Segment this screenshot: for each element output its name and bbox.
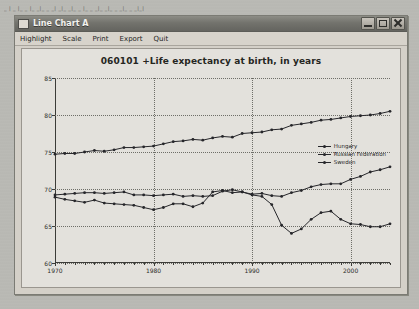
window-titlebar[interactable]: Line Chart A <box>15 16 407 32</box>
x-tick-mark-minor <box>213 263 214 265</box>
x-tick-mark-minor <box>331 263 332 265</box>
x-tick-mark-minor <box>370 263 371 265</box>
x-tick-mark-minor <box>85 263 86 265</box>
legend-label: Sweden <box>334 159 356 166</box>
y-tick-label: 75 <box>44 149 52 156</box>
x-tick-mark-major <box>55 263 56 266</box>
y-tick-label: 80 <box>44 112 52 119</box>
x-tick-mark-minor <box>341 263 342 265</box>
x-tick-mark-minor <box>232 263 233 265</box>
y-tick-label: 85 <box>44 75 52 82</box>
legend-label: Hungary <box>334 143 358 150</box>
x-tick-mark-minor <box>242 263 243 265</box>
chart-title: 060101 +Life expectancy at birth, in yea… <box>22 56 400 66</box>
x-tick-mark-minor <box>163 263 164 265</box>
window-title: Line Chart A <box>33 19 360 28</box>
x-tick-mark-minor <box>360 263 361 265</box>
series-hungary <box>54 165 392 197</box>
x-tick-label: 1990 <box>244 267 259 274</box>
x-tick-mark-minor <box>311 263 312 265</box>
x-tick-mark-minor <box>104 263 105 265</box>
x-tick-mark-major <box>252 263 253 266</box>
chart-canvas: 060101 +Life expectancy at birth, in yea… <box>21 48 401 288</box>
x-tick-mark-minor <box>144 263 145 265</box>
x-tick-mark-minor <box>223 263 224 265</box>
series-russian-federation <box>54 189 392 235</box>
legend-marker-icon <box>318 151 331 158</box>
maximize-button[interactable] <box>376 17 390 30</box>
x-tick-mark-minor <box>183 263 184 265</box>
x-tick-mark-minor <box>291 263 292 265</box>
x-tick-mark-minor <box>390 263 391 265</box>
x-tick-mark-minor <box>203 263 204 265</box>
x-tick-mark-minor <box>272 263 273 265</box>
x-tick-mark-minor <box>193 263 194 265</box>
x-tick-mark-major <box>154 263 155 266</box>
x-tick-mark-minor <box>173 263 174 265</box>
x-tick-mark-minor <box>321 263 322 265</box>
minimize-button[interactable] <box>361 17 375 30</box>
menu-item-scale[interactable]: Scale <box>62 35 83 43</box>
x-tick-mark-major <box>351 263 352 266</box>
close-button[interactable] <box>391 17 405 30</box>
legend-item[interactable]: Russian Federation <box>318 151 386 158</box>
y-tick-label: 60 <box>44 260 52 267</box>
menubar: Highlight Scale Print Export Quit <box>15 32 407 46</box>
legend-marker-icon <box>318 143 331 150</box>
y-tick-label: 70 <box>44 186 52 193</box>
x-tick-mark-minor <box>75 263 76 265</box>
series-lines <box>55 78 390 263</box>
x-tick-mark-minor <box>282 263 283 265</box>
window-icon <box>18 19 29 29</box>
x-tick-label: 1980 <box>146 267 161 274</box>
y-tick-label: 65 <box>44 223 52 230</box>
menu-item-export[interactable]: Export <box>119 35 144 43</box>
x-tick-mark-minor <box>114 263 115 265</box>
x-tick-mark-minor <box>262 263 263 265</box>
x-tick-mark-minor <box>94 263 95 265</box>
menu-item-highlight[interactable]: Highlight <box>19 35 53 43</box>
legend-label: Russian Federation <box>334 151 386 158</box>
x-tick-mark-minor <box>65 263 66 265</box>
x-tick-label: 1970 <box>47 267 62 274</box>
menu-item-print[interactable]: Print <box>91 35 109 43</box>
x-tick-mark-minor <box>134 263 135 265</box>
legend-item[interactable]: Hungary <box>318 143 386 150</box>
plot-area: 606570758085 1970198019902000 <box>55 78 390 263</box>
x-tick-mark-minor <box>124 263 125 265</box>
x-tick-mark-minor <box>380 263 381 265</box>
desktop-artifact-text: _ | _ |_ _ |_ _|_ _ _| _|_ _|_ _ |_ _ _|… <box>4 5 254 15</box>
legend-marker-icon <box>318 159 331 166</box>
menu-item-quit[interactable]: Quit <box>152 35 169 43</box>
legend-item[interactable]: Sweden <box>318 159 386 166</box>
x-tick-mark-minor <box>301 263 302 265</box>
line-chart-window: Line Chart A Highlight Scale Print Expor… <box>14 15 408 295</box>
chart-legend: HungaryRussian FederationSweden <box>318 143 386 167</box>
x-tick-label: 2000 <box>343 267 358 274</box>
